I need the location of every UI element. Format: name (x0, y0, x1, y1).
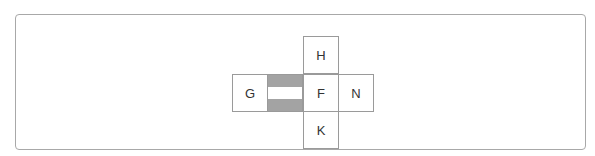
face-f: F (303, 74, 339, 112)
face-h-label: H (316, 48, 325, 63)
face-n: N (338, 74, 374, 112)
gray-band-bottom (268, 99, 302, 111)
face-g-label: G (245, 86, 255, 101)
face-k-label: K (317, 123, 326, 138)
gray-band-top (268, 75, 302, 87)
face-striped (267, 74, 303, 112)
face-h: H (303, 36, 339, 74)
face-g: G (232, 74, 268, 112)
face-f-label: F (317, 86, 325, 101)
face-k: K (303, 111, 339, 149)
face-n-label: N (351, 86, 360, 101)
